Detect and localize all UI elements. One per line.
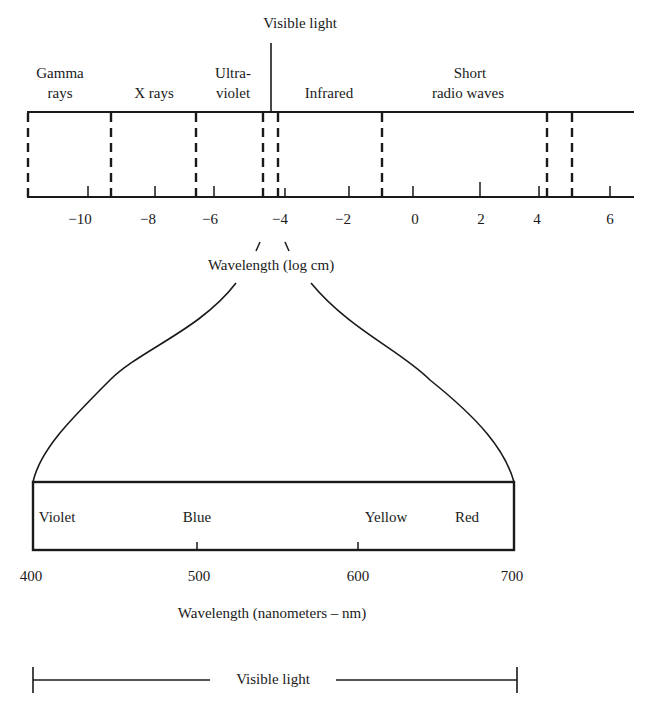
region-label-gamma-line2: rays: [48, 84, 73, 102]
zoom-curve-left: [33, 283, 236, 482]
zoom-mark-right: [285, 242, 289, 251]
log-axis-label: Wavelength (log cm): [208, 256, 334, 274]
tick-label: 6: [606, 210, 614, 228]
tick-label: 2: [477, 210, 485, 228]
tick-label: −4: [272, 210, 288, 228]
region-label-radio-line1: Short: [454, 64, 487, 82]
tick-label: −10: [68, 210, 91, 228]
region-label-infrared: Infrared: [305, 84, 353, 102]
visible-range-label: Visible light: [236, 670, 310, 688]
region-label-radio-line2: radio waves: [432, 84, 504, 102]
tick-label: −2: [335, 210, 351, 228]
nm-tick-label: 700: [501, 567, 524, 585]
tick-label: −6: [202, 210, 218, 228]
visible-spectrum-box: [33, 482, 514, 550]
zoom-curve-right: [311, 283, 514, 482]
nm-tick-label: 600: [347, 567, 370, 585]
tick-label: 0: [411, 210, 419, 228]
region-label-ultraviolet-line1: Ultra-: [215, 64, 251, 82]
zoom-mark-left: [256, 242, 260, 251]
tick-label: 4: [533, 210, 541, 228]
region-label-gamma-line1: Gamma: [36, 64, 83, 82]
visible-light-label: Visible light: [263, 14, 337, 32]
nm-tick-label: 500: [188, 567, 211, 585]
color-label-yellow: Yellow: [365, 508, 408, 526]
nm-tick-label: 400: [20, 567, 43, 585]
spectrum-diagram: [0, 0, 648, 707]
color-label-blue: Blue: [183, 508, 211, 526]
region-label-xrays: X rays: [134, 84, 174, 102]
nm-axis-label: Wavelength (nanometers – nm): [178, 604, 366, 622]
tick-label: −8: [140, 210, 156, 228]
region-label-ultraviolet-line2: violet: [216, 84, 250, 102]
color-label-red: Red: [455, 508, 479, 526]
color-label-violet: Violet: [39, 508, 76, 526]
